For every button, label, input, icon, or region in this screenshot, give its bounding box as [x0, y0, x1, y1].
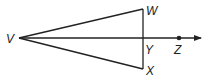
- label-x: X: [145, 64, 155, 78]
- point-z-dot: [177, 36, 182, 41]
- triangle-diagram: V W Y Z X: [0, 0, 208, 83]
- segment-vw: [19, 9, 143, 38]
- label-z: Z: [173, 43, 182, 57]
- label-y: Y: [145, 43, 154, 57]
- segment-vx: [19, 38, 143, 69]
- label-v: V: [6, 32, 15, 46]
- label-w: W: [146, 4, 159, 18]
